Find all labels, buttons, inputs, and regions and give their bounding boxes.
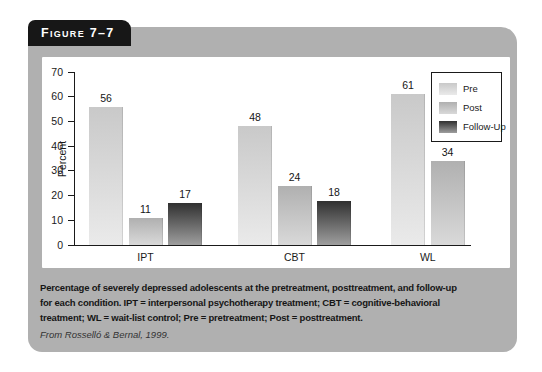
bar-cbt-post [278, 186, 312, 245]
bar-cbt-follow-up [317, 201, 351, 245]
legend-label: Post [463, 102, 482, 113]
bar-value-label: 61 [388, 79, 428, 91]
bar-value-label: 17 [165, 188, 205, 200]
chart-area: Percent 010203040506070561117IPT482418CB… [42, 57, 510, 268]
bar-value-label: 18 [314, 186, 354, 198]
y-axis-tick-label: 0 [33, 239, 63, 252]
bar-ipt-pre [89, 107, 123, 245]
bar-wl-post [431, 161, 465, 245]
caption-line: Percentage of severely depressed adolesc… [40, 281, 510, 296]
legend-swatch-pre [439, 83, 457, 95]
bar-value-label: 24 [275, 171, 315, 183]
bar-value-label: 11 [126, 203, 166, 215]
legend-label: Follow-Up [463, 121, 506, 132]
y-axis-tick [68, 121, 74, 122]
caption-line: treatment; WL = wait-list control; Pre =… [40, 311, 510, 326]
x-axis-category-label: WL [398, 251, 458, 263]
x-axis-category-label: CBT [265, 251, 325, 263]
y-axis-tick-label: 50 [33, 115, 63, 128]
y-axis-tick [68, 170, 74, 171]
y-axis-tick [68, 245, 74, 246]
y-axis-tick [68, 72, 74, 73]
y-axis-tick [68, 195, 74, 196]
y-axis-tick-label: 10 [33, 214, 63, 227]
plot-area: Percent 010203040506070561117IPT482418CB… [74, 72, 471, 246]
figure-caption: Percentage of severely depressed adolesc… [40, 281, 510, 343]
figure-tab: Figure 7–7 [28, 20, 131, 46]
caption-lines: Percentage of severely depressed adolesc… [40, 281, 510, 325]
y-axis-tick [68, 96, 74, 97]
caption-line: for each condition. IPT = interpersonal … [40, 296, 510, 311]
caption-credit: From Rosselló & Bernal, 1999. [40, 328, 510, 343]
legend-item-follow-up: Follow-Up [439, 117, 497, 136]
y-axis-tick-label: 40 [33, 140, 63, 153]
bar-value-label: 56 [86, 92, 126, 104]
y-axis-tick-label: 20 [33, 189, 63, 202]
y-axis-tick [68, 220, 74, 221]
bar-cbt-pre [238, 126, 272, 245]
y-axis-tick-label: 60 [33, 90, 63, 103]
x-axis-category-label: IPT [116, 251, 176, 263]
y-axis-tick-label: 70 [33, 66, 63, 79]
legend-swatch-follow-up [439, 121, 457, 133]
bar-ipt-post [129, 218, 163, 245]
legend-item-post: Post [439, 98, 497, 117]
y-axis-tick [68, 146, 74, 147]
legend-label: Pre [463, 83, 478, 94]
bar-value-label: 48 [235, 111, 275, 123]
figure-label: Figure 7–7 [41, 26, 114, 40]
bar-ipt-follow-up [168, 203, 202, 245]
legend-item-pre: Pre [439, 79, 497, 98]
y-axis-tick-label: 30 [33, 164, 63, 177]
legend: PrePostFollow-Up [431, 72, 502, 142]
bar-wl-pre [391, 94, 425, 245]
legend-swatch-post [439, 102, 457, 114]
bar-value-label: 34 [428, 146, 468, 158]
